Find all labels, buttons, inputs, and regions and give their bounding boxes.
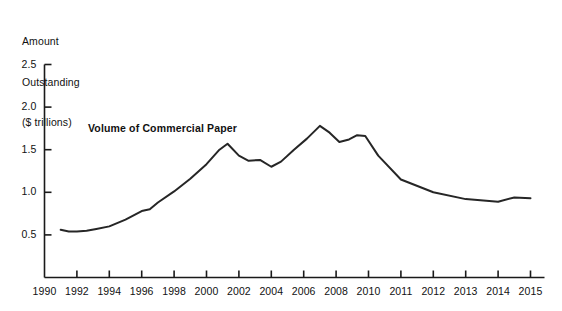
x-axis-tick-label: 2015: [511, 285, 551, 297]
y-axis-tick-label: 2.0: [11, 100, 37, 112]
y-axis-tick-label: 2.5: [11, 58, 37, 70]
y-axis-tick-label: 0.5: [11, 228, 37, 240]
y-axis-tick-label: 1.0: [11, 185, 37, 197]
y-axis-ticks: [45, 65, 52, 235]
data-series-line: [61, 126, 531, 232]
x-axis-ticks: [77, 271, 531, 278]
axis-lines: [45, 65, 545, 278]
y-axis-tick-label: 1.5: [11, 143, 37, 155]
commercial-paper-chart: Amount Outstanding ($ trillions) 0.51.01…: [0, 0, 562, 311]
plot-area: [0, 0, 562, 311]
series-annotation-label: Volume of Commercial Paper: [88, 122, 237, 134]
